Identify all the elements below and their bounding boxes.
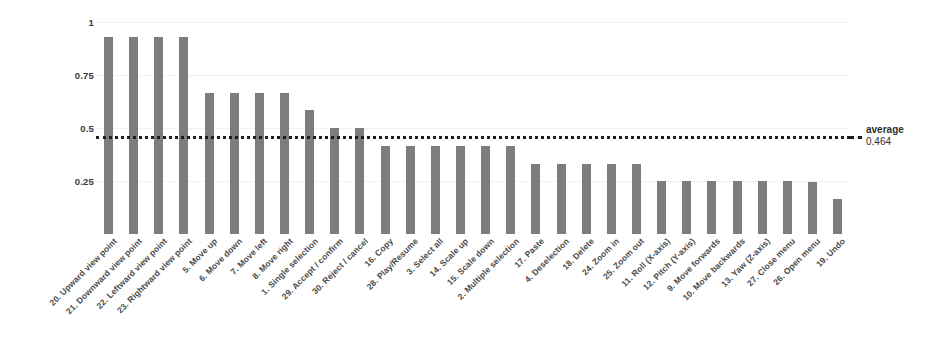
bar	[230, 93, 239, 234]
bar-slot	[649, 22, 674, 234]
bar	[506, 146, 515, 234]
bar-slot	[574, 22, 599, 234]
bar	[783, 181, 792, 234]
average-value-text: 0.464	[866, 136, 904, 149]
bar-chart: 10.750.50.25 average 0.464 20. Upward vi…	[0, 0, 945, 342]
average-line	[96, 136, 850, 139]
bar-slot	[398, 22, 423, 234]
bar	[808, 182, 817, 234]
bar	[707, 181, 716, 234]
plot-area	[96, 22, 850, 234]
bar	[733, 181, 742, 234]
bar-slot	[322, 22, 347, 234]
bar	[582, 164, 591, 234]
bar	[280, 93, 289, 234]
bar-slot	[775, 22, 800, 234]
average-line-extension	[850, 136, 862, 139]
bar-slot	[674, 22, 699, 234]
bar	[682, 181, 691, 234]
bar	[758, 181, 767, 234]
bar-slot	[297, 22, 322, 234]
bar	[632, 164, 641, 234]
bar-series	[96, 22, 850, 234]
bar	[481, 146, 490, 234]
y-tick-label: 0.25	[75, 176, 94, 187]
bar-slot	[423, 22, 448, 234]
bar	[657, 181, 666, 234]
bar-slot	[523, 22, 548, 234]
average-annotation: average 0.464	[866, 124, 904, 149]
bar	[330, 128, 339, 234]
bar	[355, 128, 364, 234]
bar-slot	[699, 22, 724, 234]
bar	[305, 110, 314, 234]
bar-slot	[750, 22, 775, 234]
bar-slot	[171, 22, 196, 234]
bar	[205, 93, 214, 234]
bar-slot	[96, 22, 121, 234]
bar-slot	[800, 22, 825, 234]
bar-slot	[146, 22, 171, 234]
bar	[607, 164, 616, 234]
bar-slot	[498, 22, 523, 234]
bar-slot	[825, 22, 850, 234]
bar	[255, 93, 264, 234]
bar	[431, 146, 440, 234]
y-tick-label: 0.5	[80, 123, 94, 134]
bar-slot	[347, 22, 372, 234]
bar-slot	[222, 22, 247, 234]
bar-slot	[373, 22, 398, 234]
bar	[531, 164, 540, 234]
bar-slot	[247, 22, 272, 234]
bar	[381, 146, 390, 234]
bar-slot	[272, 22, 297, 234]
bar-slot	[599, 22, 624, 234]
bar-slot	[197, 22, 222, 234]
x-axis-labels: 20. Upward view point21. Downward view p…	[96, 236, 850, 342]
bar-slot	[549, 22, 574, 234]
bar-slot	[121, 22, 146, 234]
bar	[456, 146, 465, 234]
bar	[557, 164, 566, 234]
y-axis: 10.750.50.25	[58, 22, 94, 234]
y-tick-label: 0.75	[75, 70, 94, 81]
bar-slot	[448, 22, 473, 234]
bar	[833, 199, 842, 234]
bar-slot	[725, 22, 750, 234]
bar-slot	[624, 22, 649, 234]
bar-slot	[473, 22, 498, 234]
bar	[406, 146, 415, 234]
average-label-text: average	[866, 124, 904, 135]
y-tick-label: 1	[89, 17, 94, 28]
